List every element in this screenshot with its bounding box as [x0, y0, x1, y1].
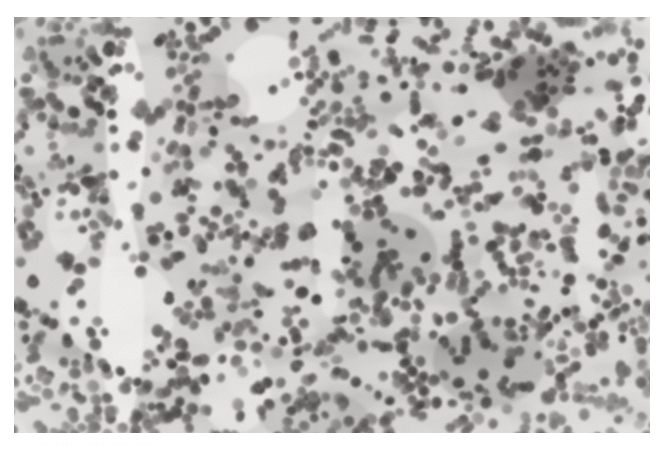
cut-off-text-line-top: · · ·· · · ·· · · · ·· · · · · ·· · · ··… [0, 0, 664, 14]
illumination-vignette [14, 17, 650, 433]
cut-off-text-line-bottom: · · · · ·· · · · · ·· · · · ·· · · · ·· … [0, 441, 664, 451]
histopathology-micrograph [14, 17, 650, 433]
bottom-text-remnant-glyphs: · · · · ·· · · · · ·· · · · ·· · · · ·· … [40, 441, 159, 449]
top-text-remnant-glyphs: · · ·· · · ·· · · · ·· · · · · ·· · · ··… [6, 0, 233, 2]
page-canvas: · · ·· · · ·· · · · ·· · · · · ·· · · ··… [0, 0, 664, 451]
micrograph-canvas [14, 17, 650, 433]
